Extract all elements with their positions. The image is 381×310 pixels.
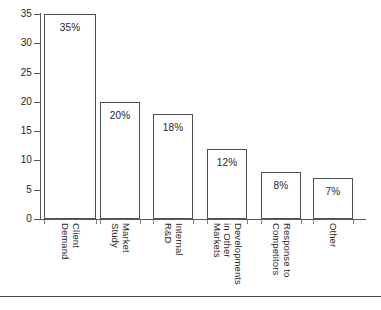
category-label-line: Competitors — [271, 223, 282, 277]
bar-value-label: 12% — [207, 158, 247, 168]
y-axis-tick-label: 35 — [2, 9, 32, 19]
y-axis-tick-label: 30 — [2, 38, 32, 48]
y-axis-tick — [34, 14, 40, 15]
x-axis-tick — [207, 220, 208, 224]
y-axis-tick-label: 25 — [2, 68, 32, 78]
y-axis-tick — [34, 43, 40, 44]
y-axis-tick-label: 10 — [2, 155, 32, 165]
footer-divider — [0, 296, 381, 297]
bar-value-label: 8% — [261, 181, 301, 191]
category-label-line: R&D — [163, 223, 174, 256]
y-axis-tick-label: 15 — [2, 126, 32, 136]
y-axis-tick — [34, 131, 40, 132]
x-axis-tick — [301, 220, 302, 224]
category-label-line: in Other — [222, 223, 233, 285]
category-label-line: Internal — [173, 223, 184, 256]
y-axis-tick — [34, 102, 40, 103]
bar-value-label: 7% — [313, 187, 353, 197]
bar-value-label: 35% — [44, 23, 96, 33]
x-axis-tick — [96, 220, 97, 224]
bar-value-label: 18% — [153, 123, 193, 133]
x-axis-category-label: InternalR&D — [163, 223, 184, 256]
y-axis-tick-label: 5 — [2, 185, 32, 195]
category-label-line: Other — [328, 223, 339, 247]
category-label-line: Demand — [60, 223, 71, 260]
y-axis-tick-label: 0 — [2, 214, 32, 224]
x-axis-tick — [353, 220, 354, 224]
x-axis-tick — [247, 220, 248, 224]
bar-value-label: 20% — [100, 111, 140, 121]
category-label-line: Market — [120, 223, 131, 253]
category-label-line: Markets — [211, 223, 222, 285]
x-axis-line — [40, 219, 366, 220]
x-axis-tick — [261, 220, 262, 224]
x-axis-tick — [44, 220, 45, 224]
category-label-line: Response to — [281, 223, 292, 277]
x-axis-tick — [313, 220, 314, 224]
x-axis-tick — [153, 220, 154, 224]
x-axis-category-label: ClientDemand — [60, 223, 81, 260]
x-axis-category-label: MarketStudy — [110, 223, 131, 253]
x-axis-tick — [193, 220, 194, 224]
y-axis-tick — [34, 160, 40, 161]
x-axis-tick — [140, 220, 141, 224]
bar — [313, 178, 353, 219]
y-axis-tick-label: 20 — [2, 97, 32, 107]
y-axis-line — [40, 13, 41, 220]
y-axis-tick — [34, 219, 40, 220]
x-axis-category-label: Other — [328, 223, 339, 247]
x-axis-tick — [100, 220, 101, 224]
bar — [44, 14, 96, 219]
category-label-line: Developments — [232, 223, 243, 285]
x-axis-category-label: Response toCompetitors — [271, 223, 292, 277]
y-axis-tick — [34, 73, 40, 74]
bar-chart: 05101520253035 35%20%18%12%8%7% ClientDe… — [0, 0, 381, 310]
y-axis-tick — [34, 190, 40, 191]
category-label-line: Study — [110, 223, 121, 253]
category-label-line: Client — [70, 223, 81, 260]
x-axis-category-label: Developmentsin OtherMarkets — [211, 223, 243, 285]
